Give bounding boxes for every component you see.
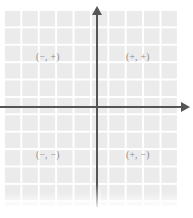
grid-background bbox=[4, 10, 178, 206]
y-axis-line bbox=[96, 11, 98, 207]
y-axis-arrow-up-icon bbox=[92, 6, 102, 15]
quadrant-three-label: (−, −) bbox=[36, 150, 60, 160]
quadrant-four-label: (+, −) bbox=[126, 150, 150, 160]
grid-bottom-fade bbox=[4, 192, 178, 206]
x-axis-arrow-right-icon bbox=[181, 102, 190, 112]
coordinate-plane-figure: (−, +) (+, +) (−, −) (+, −) bbox=[0, 0, 193, 218]
quadrant-two-label: (−, +) bbox=[36, 52, 60, 62]
x-axis-line bbox=[0, 106, 186, 108]
quadrant-one-label: (+, +) bbox=[126, 52, 150, 62]
